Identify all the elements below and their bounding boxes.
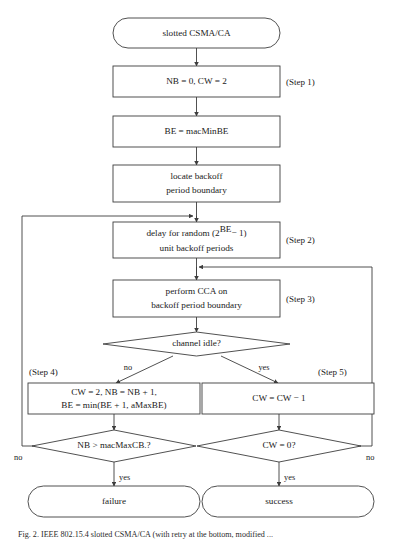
- node-nb-check-label: NB > macMaxCB.?: [77, 440, 150, 450]
- edge-label-cw-yes: yes: [284, 473, 295, 482]
- node-cw-check-label: CW = 0?: [262, 440, 295, 450]
- edge-label-nb-no: no: [14, 453, 22, 462]
- node-delay-line2: unit backoff periods: [160, 243, 234, 253]
- node-be-init-label: BE = macMinBE: [165, 126, 229, 136]
- node-init-label: NB = 0, CW = 2: [166, 76, 227, 86]
- edge-label-channel-no: no: [124, 363, 132, 372]
- node-cw-dec-label: CW = CW − 1: [252, 393, 306, 403]
- node-start: slotted CSMA/CA: [113, 18, 280, 48]
- node-busy-line1: CW = 2, NB = NB + 1,: [71, 387, 157, 397]
- node-delay-line1-a: delay for random (2: [146, 228, 220, 238]
- node-busy-update: CW = 2, NB = NB + 1, BE = min(BE + 1, aM…: [28, 383, 200, 414]
- node-cw-check: CW = 0?: [197, 430, 361, 462]
- node-failure: failure: [28, 486, 200, 517]
- node-perform-cca: perform CCA on backoff period boundary: [113, 280, 280, 317]
- node-delay-random: delay for random (2BE− 1) unit backoff p…: [113, 222, 280, 258]
- node-nb-check: NB > macMaxCB.?: [32, 430, 196, 462]
- node-cca-line2: backoff period boundary: [151, 300, 242, 310]
- step-label-1: (Step 1): [286, 77, 315, 87]
- node-cw-decrement: CW = CW − 1: [202, 383, 374, 414]
- step-label-3: (Step 3): [286, 294, 315, 304]
- edge-label-channel-yes: yes: [258, 363, 269, 372]
- node-channel-idle-label: channel idle?: [172, 338, 221, 348]
- node-channel-idle: channel idle?: [103, 332, 290, 356]
- node-failure-label: failure: [102, 496, 126, 506]
- node-start-label: slotted CSMA/CA: [162, 28, 231, 38]
- edge-label-nb-yes: yes: [119, 473, 130, 482]
- node-delay-line1-b: − 1): [231, 228, 246, 238]
- node-success-label: success: [265, 496, 293, 506]
- step-label-4: (Step 4): [29, 367, 58, 377]
- node-locate-backoff: locate backoff period boundary: [113, 165, 280, 202]
- figure-caption: Fig. 2. IEEE 802.15.4 slotted CSMA/CA (w…: [18, 529, 378, 540]
- step-label-5: (Step 5): [318, 367, 347, 377]
- node-success: success: [202, 486, 374, 517]
- node-busy-line2: BE = min(BE + 1, aMaxBE): [61, 400, 166, 410]
- node-init: NB = 0, CW = 2: [113, 66, 280, 97]
- node-cca-line1: perform CCA on: [166, 286, 228, 296]
- node-locate-line2: period boundary: [166, 185, 227, 195]
- node-be-init: BE = macMinBE: [113, 116, 280, 147]
- edge-label-cw-no: no: [366, 453, 374, 462]
- step-label-2: (Step 2): [286, 235, 315, 245]
- flowchart-diagram: busy_update --> cw_dec --> failure --> s…: [0, 0, 393, 542]
- figure-root: busy_update --> cw_dec --> failure --> s…: [0, 0, 393, 542]
- node-locate-line1: locate backoff: [170, 171, 223, 181]
- node-delay-exponent: BE: [220, 225, 232, 235]
